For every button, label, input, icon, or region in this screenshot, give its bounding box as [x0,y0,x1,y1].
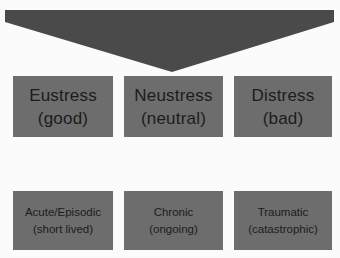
box-title: Eustress [29,84,97,107]
box-title: Traumatic [258,204,309,221]
box-title: Neustress [134,84,212,107]
duration-box-acute: Acute/Episodic (short lived) [13,191,113,250]
box-subtitle: (bad) [263,107,304,130]
down-arrow-icon [5,10,334,73]
type-box-distress: Distress (bad) [234,76,332,137]
box-subtitle: (neutral) [141,107,206,130]
type-box-eustress: Eustress (good) [13,76,113,137]
box-title: Acute/Episodic [25,204,101,221]
box-subtitle: (ongoing) [149,221,198,238]
box-title: Distress [252,84,315,107]
diagram-canvas: Eustress (good) Neustress (neutral) Dist… [0,0,340,258]
duration-box-traumatic: Traumatic (catastrophic) [234,191,332,250]
box-subtitle: (good) [38,107,88,130]
type-box-neustress: Neustress (neutral) [124,76,223,137]
duration-box-chronic: Chronic (ongoing) [124,191,223,250]
box-subtitle: (short lived) [33,221,93,238]
box-subtitle: (catastrophic) [248,221,318,238]
arrow-banner [5,10,334,73]
box-title: Chronic [154,204,194,221]
